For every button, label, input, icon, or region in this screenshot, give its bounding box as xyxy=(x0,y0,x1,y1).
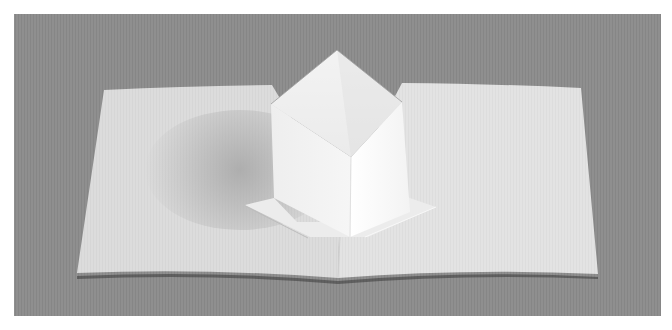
photograph xyxy=(14,14,661,316)
popup-card-illustration xyxy=(14,14,661,316)
